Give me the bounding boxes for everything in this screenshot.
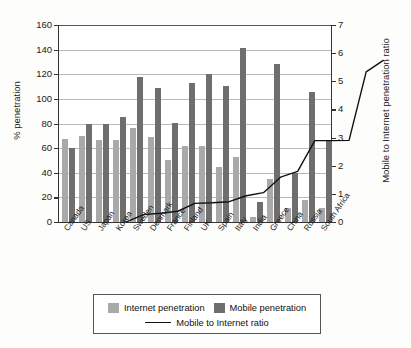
chart-container: % penetration Mobile to Internet penetra… — [0, 0, 411, 348]
y-tick-label-left: 0 — [26, 217, 52, 227]
legend-line-ratio-icon — [145, 322, 171, 323]
bar-mobile — [120, 117, 126, 222]
bar-internet — [216, 167, 222, 222]
bar-mobile — [189, 83, 195, 222]
y-tick-label-right: 4 — [338, 104, 358, 114]
y-tick-right — [332, 109, 336, 110]
y-tick-right — [332, 194, 336, 195]
bar-mobile — [155, 88, 161, 222]
bar-internet — [113, 140, 119, 222]
y-tick-label-left: 160 — [26, 20, 52, 30]
bar-group — [130, 25, 144, 222]
bar-group — [216, 25, 230, 222]
y-tick-left — [54, 25, 58, 26]
bar-internet — [233, 157, 239, 222]
x-axis-tick-labels: CanadaUSJapanKoreaSwedenDenmarkFranceFin… — [58, 224, 332, 284]
plot-area — [58, 25, 332, 222]
y-tick-label-left: 140 — [26, 45, 52, 55]
y-tick-left — [54, 173, 58, 174]
y-tick-right — [332, 81, 336, 82]
y-tick-left — [54, 197, 58, 198]
bar-group — [113, 25, 127, 222]
bar-group — [233, 25, 247, 222]
y-tick-left — [54, 148, 58, 149]
y-tick-left — [54, 74, 58, 75]
bar-group — [302, 25, 316, 222]
legend-item-internet: Internet penetration — [108, 303, 205, 313]
bar-group — [319, 25, 333, 222]
y-tick-left — [54, 222, 58, 223]
y-tick-label-right: 3 — [338, 133, 358, 143]
y-tick-left — [54, 50, 58, 51]
bar-group — [199, 25, 213, 222]
y-tick-label-left: 20 — [26, 192, 52, 202]
y-tick-label-left: 80 — [26, 119, 52, 129]
legend-swatch-mobile-icon — [214, 303, 225, 313]
legend-row-top: Internet penetration Mobile penetration — [94, 300, 320, 315]
bar-group — [148, 25, 162, 222]
legend-label-internet: Internet penetration — [124, 303, 205, 313]
y-tick-right — [332, 138, 336, 139]
legend-label-ratio: Mobile to Internet ratio — [176, 318, 269, 328]
y-tick-right — [332, 25, 336, 26]
legend-row-bottom: Mobile to Internet ratio — [94, 315, 320, 330]
y-axis-label-right: Mobile to Internet penetration ratio — [380, 31, 391, 191]
bar-group — [62, 25, 76, 222]
bar-group — [96, 25, 110, 222]
bar-group — [267, 25, 281, 222]
y-tick-label-right: 2 — [338, 161, 358, 171]
y-tick-label-right: 5 — [338, 76, 358, 86]
y-axis-label-left: % penetration — [11, 61, 22, 161]
legend-label-mobile: Mobile penetration — [230, 303, 307, 313]
legend-swatch-internet-icon — [108, 303, 119, 313]
bar-mobile — [137, 77, 143, 222]
bar-internet — [130, 128, 136, 222]
bar-group — [79, 25, 93, 222]
y-tick-label-right: 0 — [338, 217, 358, 227]
bar-internet — [267, 179, 273, 222]
y-tick-right — [332, 53, 336, 54]
y-tick-left — [54, 124, 58, 125]
bar-mobile — [206, 74, 212, 222]
bar-mobile — [86, 124, 92, 223]
bar-internet — [96, 140, 102, 222]
bar-group — [285, 25, 299, 222]
y-tick-label-left: 120 — [26, 69, 52, 79]
y-tick-label-right: 7 — [338, 20, 358, 30]
y-tick-label-left: 100 — [26, 94, 52, 104]
bar-mobile — [240, 48, 246, 222]
bar-group — [165, 25, 179, 222]
bar-group — [182, 25, 196, 222]
y-tick-left — [54, 99, 58, 100]
y-tick-right — [332, 166, 336, 167]
legend-item-ratio: Mobile to Internet ratio — [145, 318, 269, 328]
y-tick-label-left: 60 — [26, 143, 52, 153]
bar-mobile — [223, 86, 229, 222]
bar-mobile — [274, 64, 280, 222]
y-tick-label-left: 40 — [26, 168, 52, 178]
bar-mobile — [103, 124, 109, 223]
bar-mobile — [309, 92, 315, 222]
bar-internet — [62, 139, 68, 222]
legend-item-mobile: Mobile penetration — [214, 303, 307, 313]
chart-legend: Internet penetration Mobile penetration … — [93, 294, 321, 334]
y-tick-label-right: 6 — [338, 48, 358, 58]
bar-group — [250, 25, 264, 222]
